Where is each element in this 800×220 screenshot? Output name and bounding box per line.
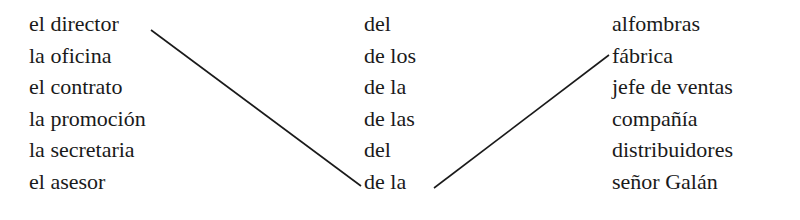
list-item: jefe de ventas [612, 71, 733, 103]
column-prepositions: del de los de la de las del de la [364, 8, 416, 198]
list-item: de la [364, 71, 416, 103]
list-item: la secretaria [29, 134, 146, 166]
list-item: la oficina [29, 40, 146, 72]
column-nouns: el director la oficina el contrato la pr… [29, 8, 146, 198]
connector-line [151, 30, 361, 186]
list-item: señor Galán [612, 166, 733, 198]
list-item: alfombras [612, 8, 733, 40]
list-item: del [364, 134, 416, 166]
column-complements: alfombras fábrica jefe de ventas compañí… [612, 8, 733, 198]
list-item: el asesor [29, 166, 146, 198]
list-item: distribuidores [612, 134, 733, 166]
list-item: el contrato [29, 71, 146, 103]
connector-line [434, 55, 609, 188]
list-item: del [364, 8, 416, 40]
list-item: de la [364, 166, 416, 198]
list-item: de las [364, 103, 416, 135]
list-item: la promoción [29, 103, 146, 135]
list-item: de los [364, 40, 416, 72]
list-item: fábrica [612, 40, 733, 72]
list-item: compañía [612, 103, 733, 135]
list-item: el director [29, 8, 146, 40]
